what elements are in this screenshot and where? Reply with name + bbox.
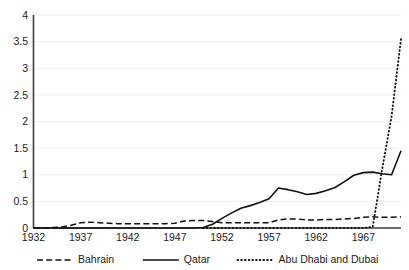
x-tick-label: 1937 [69, 231, 93, 243]
x-tick-label: 1942 [116, 231, 140, 243]
y-tick-label: 3.5 [13, 35, 28, 47]
y-axis-tick-labels: 00.511.522.533.54 [13, 9, 28, 234]
series-line-qatar [34, 151, 402, 228]
gridlines-group [34, 15, 402, 201]
legend: BahrainQatarAbu Dhabi and Dubai [37, 253, 378, 265]
chart-canvas: 00.511.522.533.54 1932193719421947195219… [0, 0, 409, 270]
y-tick-label: 3 [22, 62, 28, 74]
y-tick-label: 2 [22, 115, 28, 127]
x-tick-label: 1952 [210, 231, 234, 243]
x-tick-label: 1947 [163, 231, 187, 243]
y-tick-label: 1.5 [13, 142, 28, 154]
series-line-abu-dhabi-and-dubai [203, 39, 401, 228]
legend-label-abu-dhabi-and-dubai: Abu Dhabi and Dubai [279, 253, 379, 265]
legend-label-bahrain: Bahrain [78, 253, 114, 265]
x-axis-tick-labels: 19321937194219471952195719621967 [22, 231, 375, 243]
data-series-group [34, 39, 402, 228]
y-tick-label: 1 [22, 168, 28, 180]
y-tick-label: 0.5 [13, 195, 28, 207]
x-tick-label: 1932 [22, 231, 46, 243]
series-line-bahrain [34, 217, 402, 228]
x-tick-label: 1962 [305, 231, 329, 243]
line-chart-figure: 00.511.522.533.54 1932193719421947195219… [0, 0, 409, 270]
y-tick-label: 2.5 [13, 89, 28, 101]
x-tick-label: 1967 [352, 231, 376, 243]
y-tick-label: 4 [22, 9, 28, 21]
x-tick-label: 1957 [257, 231, 281, 243]
legend-label-qatar: Qatar [184, 253, 211, 265]
